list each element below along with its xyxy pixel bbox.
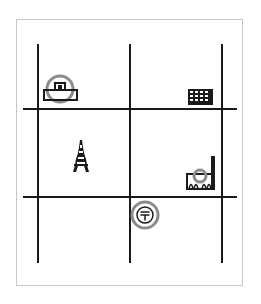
school-or-public-building-icon <box>42 72 80 108</box>
road-vertical-right <box>221 44 223 263</box>
road-horizontal-top <box>23 108 237 110</box>
post-office-icon <box>130 200 162 232</box>
tower-icon <box>72 139 90 173</box>
road-horizontal-bottom <box>23 196 237 198</box>
road-vertical-left <box>37 44 39 263</box>
factory-icon <box>185 154 219 192</box>
office-building-icon <box>187 88 214 106</box>
